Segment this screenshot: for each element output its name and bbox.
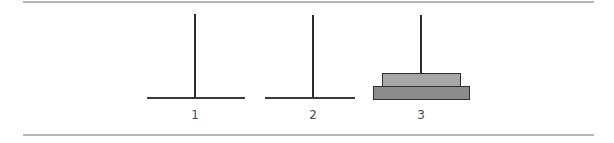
peg-2-label: 2 bbox=[298, 108, 328, 122]
disk-small[interactable] bbox=[382, 73, 461, 87]
disk-large[interactable] bbox=[373, 86, 470, 100]
bottom-divider bbox=[23, 134, 594, 136]
hanoi-board: 1 2 3 bbox=[0, 0, 614, 143]
peg-1-label: 1 bbox=[180, 108, 210, 122]
peg-3-pole bbox=[420, 15, 422, 75]
peg-1-base bbox=[147, 97, 245, 99]
peg-2-pole bbox=[312, 15, 314, 98]
peg-3-label: 3 bbox=[406, 108, 436, 122]
peg-1-pole bbox=[194, 14, 196, 98]
peg-2-base bbox=[265, 97, 355, 99]
